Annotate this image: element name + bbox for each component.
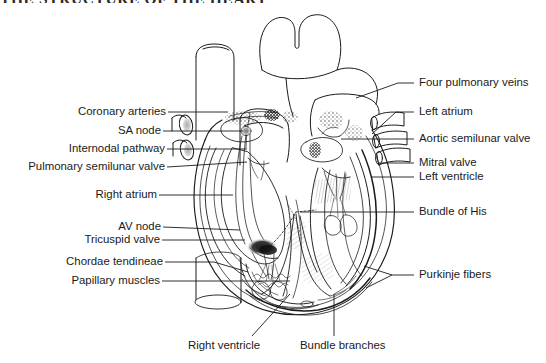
leader-av-node xyxy=(163,227,240,230)
leader-four-pulmonary-veins xyxy=(356,83,398,98)
label-left-ventricle: Left ventricle xyxy=(419,170,484,182)
heart-anatomy-figure: THE STRUCTURE OF THE HEART xyxy=(0,0,546,363)
label-right-atrium: Right atrium xyxy=(0,188,157,200)
label-coronary-arteries: Coronary arteries xyxy=(0,105,166,117)
label-pulmonary-semilunar-valve: Pulmonary semilunar valve xyxy=(0,160,165,172)
label-sa-node: SA node xyxy=(0,124,161,136)
label-purkinje-fibers: Purkinje fibers xyxy=(419,268,491,280)
label-four-pulmonary-veins: Four pulmonary veins xyxy=(419,76,529,88)
label-left-atrium: Left atrium xyxy=(419,105,473,117)
label-aortic-semilunar-valve: Aortic semilunar valve xyxy=(419,132,530,144)
label-tricuspid-valve: Tricuspid valve xyxy=(0,233,160,245)
label-internodal-pathway: Internodal pathway xyxy=(0,142,165,154)
leader-purkinje-fibers-b xyxy=(366,275,392,288)
label-av-node: AV node xyxy=(0,220,161,232)
label-bundle-branches: Bundle branches xyxy=(300,339,386,351)
leader-left-atrium xyxy=(372,112,414,134)
label-chordae-tendineae: Chordae tendineae xyxy=(0,255,163,267)
label-mitral-valve: Mitral valve xyxy=(419,156,477,168)
leader-right-ventricle xyxy=(252,294,290,336)
label-bundle-of-his: Bundle of His xyxy=(419,205,487,217)
label-right-ventricle: Right ventricle xyxy=(188,339,260,351)
leader-purkinje-fibers-a xyxy=(364,266,414,275)
leader-pulmonary-semilunar-valve xyxy=(167,162,247,167)
leader-chordae-tendineae-kink xyxy=(214,262,248,272)
label-papillary-muscles: Papillary muscles xyxy=(0,274,160,286)
